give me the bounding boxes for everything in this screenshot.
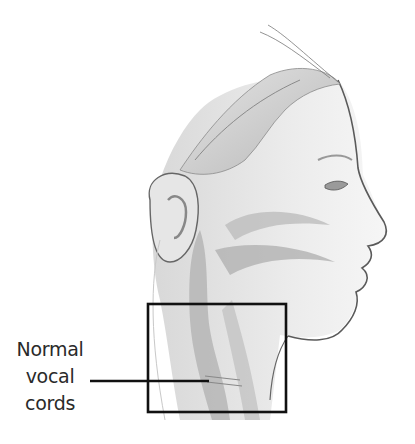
label-line-3: cords — [4, 390, 96, 417]
label-line-2: vocal — [4, 363, 96, 390]
vocal-cords-label: Normal vocal cords — [4, 336, 96, 417]
label-line-1: Normal — [4, 336, 96, 363]
